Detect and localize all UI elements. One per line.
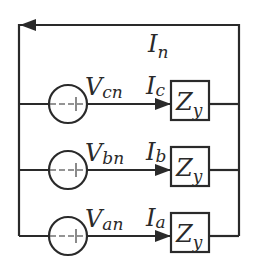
source-label-a: Van [85,205,123,234]
current-label-c: Ic [145,72,165,100]
circuit-diagram: In Vcn Ic Zy Vbn Ib Zy Van Ia [0,0,257,274]
source-label-b: Vbn [85,139,124,168]
current-label-a: Ia [145,204,166,232]
phase-row-c: Vcn Ic Zy [19,72,239,123]
phase-row-b: Vbn Ib Zy [19,138,239,189]
neutral-current-arrow-icon [20,19,36,31]
neutral-wire: In [19,19,239,236]
neutral-current-label: In [147,30,168,62]
source-label-c: Vcn [85,73,123,102]
phase-row-a: Van Ia Zy [19,204,239,255]
current-label-b: Ib [145,138,166,166]
